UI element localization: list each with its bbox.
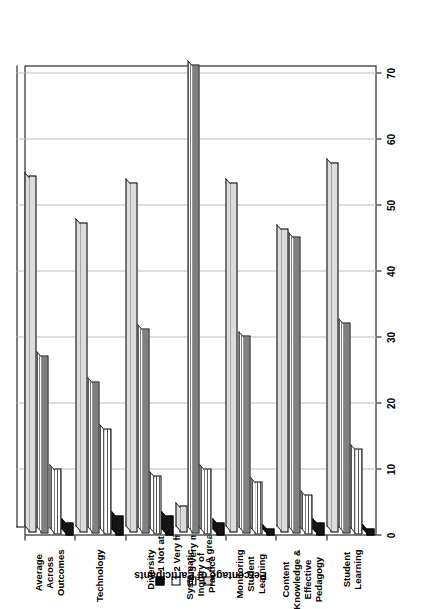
category-separator	[326, 535, 327, 540]
axis-tick	[376, 534, 381, 535]
axis-tick-label: 30	[385, 331, 396, 342]
bar-3	[342, 322, 350, 533]
bar-2	[153, 475, 161, 534]
axis-tick	[376, 138, 381, 139]
axis-tick-label: 10	[385, 463, 396, 474]
plot-area: 010203040506070 StudentLearningContentKn…	[24, 65, 376, 535]
category-separator	[74, 535, 75, 540]
bar-2	[304, 494, 312, 534]
bar-3	[292, 236, 300, 533]
category-separator	[275, 535, 276, 540]
bar-2	[53, 468, 61, 534]
bar-1	[366, 528, 374, 535]
axis-tick	[376, 468, 381, 469]
bar-4	[79, 222, 87, 532]
bar-4	[28, 175, 36, 531]
axis-tick	[376, 270, 381, 271]
bar-4	[129, 182, 137, 532]
category-label: AverageAcrossOutcomes	[33, 549, 66, 595]
bar-3	[40, 355, 48, 533]
bar-1	[165, 515, 173, 535]
category-label: Technology	[94, 549, 105, 602]
axis-tick-label: 70	[385, 67, 396, 78]
bar-3	[191, 64, 199, 533]
bar-2	[354, 448, 362, 534]
category-separator	[175, 535, 176, 540]
bar-4	[229, 182, 237, 532]
category-label: StudentLearning	[340, 549, 362, 589]
bar-2	[254, 481, 262, 534]
bar-1	[266, 528, 274, 535]
axis-tick	[376, 336, 381, 337]
axis-tick	[376, 72, 381, 73]
bar-4	[280, 228, 288, 532]
bar-4	[330, 162, 338, 532]
bar-3	[141, 328, 149, 533]
category-separator	[24, 535, 25, 540]
axis-tick	[376, 204, 381, 205]
bar-2	[103, 428, 111, 534]
category-label: Diversity	[144, 549, 155, 589]
axis-tick-label: 0	[385, 532, 396, 538]
category-label: ContentKnowledge &EffectivePedagogy	[279, 549, 323, 609]
bar-3	[242, 335, 250, 533]
bar-1	[316, 522, 324, 535]
bar-1	[216, 522, 224, 535]
category-label: SystematicInquiry ofPractice	[184, 549, 217, 599]
axis-tick-label: 40	[385, 265, 396, 276]
category-label: MonitoringStudentLearning	[234, 549, 267, 598]
axis-tick-label: 60	[385, 133, 396, 144]
category-separator	[125, 535, 126, 540]
bar-4	[179, 505, 187, 531]
bar-1	[115, 515, 123, 535]
axis-tick-label: 50	[385, 199, 396, 210]
bar-2	[203, 468, 211, 534]
bar-1	[65, 522, 73, 535]
bar-3	[91, 381, 99, 533]
category-separator	[225, 535, 226, 540]
axis-tick	[376, 402, 381, 403]
axis-tick-label: 20	[385, 397, 396, 408]
